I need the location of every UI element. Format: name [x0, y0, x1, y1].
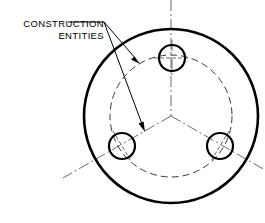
- bolt-circle-drawing: CONSTRUCTION ENTITIES: [0, 0, 265, 223]
- center-line-radial-lower-left: [63, 116, 171, 178]
- hole-lower-left: [109, 133, 135, 159]
- callout-line-1: CONSTRUCTION: [23, 18, 104, 29]
- leader-to-bolt-circle-arrowhead: [131, 57, 140, 65]
- leader-to-center-line-arrowhead: [139, 122, 146, 132]
- hole-lower-right: [207, 133, 233, 159]
- center-line-radial-lower-right: [171, 116, 265, 170]
- callout-line-2: ENTITIES: [58, 30, 104, 41]
- technical-drawing-canvas: CONSTRUCTION ENTITIES: [0, 0, 265, 223]
- construction-entities-callout: CONSTRUCTION ENTITIES: [23, 18, 104, 41]
